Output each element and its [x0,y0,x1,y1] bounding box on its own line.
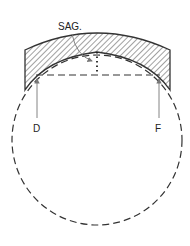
sagitta-diagram: SAG. D F [0,0,190,246]
reference-circle [12,55,182,225]
f-label: F [155,123,161,134]
sag-label: SAG. [58,21,82,32]
d-label: D [33,123,40,134]
